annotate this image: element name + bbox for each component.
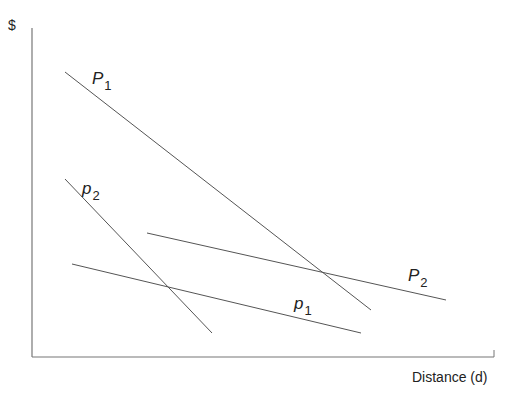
label-p1-sub: 1 bbox=[304, 303, 311, 318]
label-P2-main: P bbox=[408, 266, 419, 285]
y-axis-label: $ bbox=[8, 18, 16, 32]
label-P2: P2 bbox=[408, 267, 428, 284]
label-p2: p2 bbox=[82, 180, 100, 197]
label-p2-main: p bbox=[82, 179, 91, 198]
label-P1-main: P bbox=[92, 69, 103, 88]
label-P1: P1 bbox=[92, 70, 112, 87]
label-p1: p1 bbox=[294, 295, 312, 312]
line-P2 bbox=[147, 233, 446, 300]
label-P1-sub: 1 bbox=[104, 78, 111, 93]
label-p1-main: p bbox=[294, 294, 303, 313]
line-p2 bbox=[65, 179, 212, 333]
label-P2-sub: 2 bbox=[420, 275, 427, 290]
label-p2-sub: 2 bbox=[92, 188, 99, 203]
x-axis-label: Distance (d) bbox=[412, 370, 487, 384]
line-p1 bbox=[72, 264, 361, 333]
line-P1 bbox=[65, 72, 371, 310]
chart-canvas bbox=[0, 0, 511, 396]
